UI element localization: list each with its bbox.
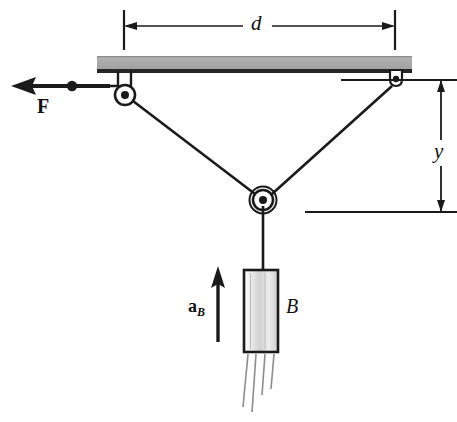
label-block-b: B bbox=[286, 296, 298, 316]
label-acceleration-ab: aB bbox=[188, 297, 205, 318]
block-B bbox=[244, 270, 278, 352]
force-arrow-F bbox=[11, 77, 117, 95]
block-B-body bbox=[244, 270, 278, 352]
cable bbox=[133, 86, 392, 271]
bottom-pulley-axle bbox=[259, 196, 267, 204]
figure-canvas bbox=[0, 0, 457, 422]
right-eyelet-assembly bbox=[390, 70, 402, 86]
motion-line bbox=[243, 354, 248, 407]
label-acceleration-base: a bbox=[188, 296, 197, 316]
motion-line bbox=[262, 354, 265, 395]
beam-bottom-edge bbox=[97, 69, 412, 73]
cable-right-segment bbox=[272, 86, 392, 194]
dimension-d-arrowhead-right bbox=[382, 22, 395, 30]
dimension-y-arrowhead-bottom bbox=[437, 200, 445, 212]
label-dimension-d: d bbox=[251, 13, 262, 34]
label-dimension-y: y bbox=[434, 141, 443, 162]
ceiling-beam bbox=[97, 56, 412, 73]
motion-line bbox=[271, 354, 274, 389]
left-pulley-assembly bbox=[115, 71, 135, 105]
left-pulley-axle bbox=[121, 91, 129, 99]
label-force-f: F bbox=[37, 96, 49, 116]
motion-line bbox=[252, 354, 256, 412]
acceleration-arrow-aB bbox=[211, 266, 225, 342]
right-eyelet-pin bbox=[393, 76, 399, 82]
label-acceleration-subscript: B bbox=[197, 305, 205, 319]
dimension-d-arrowhead-left bbox=[124, 22, 137, 30]
beam-top-edge bbox=[97, 56, 412, 57]
motion-lines bbox=[243, 354, 274, 412]
cable-left-segment bbox=[133, 101, 255, 194]
cable-knot bbox=[67, 81, 77, 91]
pulley-system-figure: d y B F aB bbox=[0, 0, 457, 422]
dimension-y-arrowhead-top bbox=[437, 80, 445, 92]
